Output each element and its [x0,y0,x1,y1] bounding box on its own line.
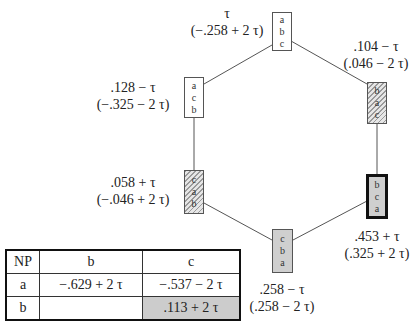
row-a-label: a [6,274,40,297]
node-top-rank-2: b [280,26,285,38]
label-top-left: .128 − τ (−.325 − 2 τ) [84,79,182,113]
cell-a-b: −.629 + 2 τ [40,274,143,297]
label-top-right-line1: .104 − τ [336,38,416,55]
node-bottom-rank-2: b [280,245,285,257]
node-bottom-right-rank-2: c [375,191,379,203]
edge-top-topleft [204,45,272,84]
np-table: NP b c a −.629 + 2 τ −.537 − 2 τ b .113 … [5,249,241,321]
node-bottom-rank-3: a [280,257,284,269]
node-top-right: b a c [367,82,387,124]
edge-bottomleft-bottom [204,203,272,240]
node-top-left-rank-2: c [192,92,196,104]
node-top-right-rank-2: a [375,97,379,109]
node-bottom: c b a [272,229,293,273]
node-top-left: a c b [184,77,204,118]
header-b: b [40,250,143,274]
node-top-right-rank-1: b [375,85,380,97]
label-bottom-left-line1: .058 + τ [84,174,182,191]
row-b-label: b [6,297,40,321]
table-row: b .113 + 2 τ [6,297,240,321]
label-top-line2: (−.258 + 2 τ) [178,22,276,39]
node-top-left-rank-1: a [192,80,196,92]
cell-b-c: .113 + 2 τ [143,297,241,321]
node-bottom-left-rank-1: c [192,174,196,186]
label-bottom: .258 − τ (.258 − 2 τ) [242,281,322,315]
cell-b-b [40,297,143,321]
node-bottom-right: b c a [366,174,388,219]
label-top-left-line1: .128 − τ [84,79,182,96]
label-top: τ (−.258 + 2 τ) [178,5,276,39]
label-top-right: .104 − τ (.046 − 2 τ) [336,38,416,72]
node-bottom-right-rank-3: a [375,203,379,215]
cell-a-c: −.537 − 2 τ [143,274,241,297]
table-row: a −.629 + 2 τ −.537 − 2 τ [6,274,240,297]
node-top-right-rank-3: c [375,109,379,121]
label-top-right-line2: (.046 − 2 τ) [336,55,416,72]
label-bottom-right: .453 + τ (.325 + 2 τ) [337,228,417,262]
label-bottom-line2: (.258 − 2 τ) [242,298,322,315]
node-bottom-rank-1: c [280,233,284,245]
label-bottom-right-line2: (.325 + 2 τ) [337,245,417,262]
table-header-row: NP b c [6,250,240,274]
header-c: c [143,250,241,274]
node-top-rank-3: c [280,38,284,50]
node-bottom-left-rank-2: a [192,186,196,198]
label-top-left-line2: (−.325 − 2 τ) [84,96,182,113]
header-np: NP [6,250,40,274]
label-bottom-left: .058 + τ (−.046 + 2 τ) [84,174,182,208]
node-top-rank-1: a [280,14,284,26]
label-bottom-left-line2: (−.046 + 2 τ) [84,191,182,208]
label-top-line1: τ [178,5,276,22]
label-bottom-right-line1: .453 + τ [337,228,417,245]
node-top-left-rank-3: b [192,104,197,116]
node-bottom-left-rank-3: b [192,198,197,210]
node-bottom-right-rank-1: b [375,179,380,191]
node-bottom-left: c a b [184,170,204,214]
label-bottom-line1: .258 − τ [242,281,322,298]
